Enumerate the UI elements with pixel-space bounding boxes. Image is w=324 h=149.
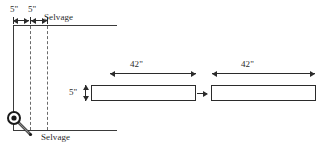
- strip-2-length-label: 42": [241, 60, 254, 69]
- width-dim-label-2: 5": [28, 5, 36, 14]
- width-dim-label-1: 5": [10, 5, 18, 14]
- selvage-bottom-label: Selvage: [41, 133, 70, 142]
- dim-tick-2: [30, 17, 31, 24]
- fabric-strip: [211, 85, 316, 101]
- strip-1-length-arrow: [110, 73, 196, 74]
- strip-1-height-label: 5": [69, 88, 77, 97]
- selvage-top-line: [13, 25, 117, 26]
- strip-1-length-label: 42": [130, 60, 143, 69]
- cut-line: [47, 26, 48, 130]
- dim-tick-1: [13, 17, 14, 24]
- fabric-strip: [91, 85, 196, 101]
- fabric-cutting-diagram: 5" 5" Selvage Selvage: [0, 0, 324, 149]
- width-dim-arrow-1: [13, 20, 29, 21]
- pin-icon: [5, 111, 39, 137]
- strip-2-length-arrow: [212, 73, 315, 74]
- strip-continuation-arrow: [197, 93, 207, 94]
- selvage-top-label: Selvage: [44, 13, 73, 22]
- fabric-panel: 5" 5" Selvage Selvage: [0, 0, 120, 149]
- strip-1-height-arrow: [85, 85, 86, 101]
